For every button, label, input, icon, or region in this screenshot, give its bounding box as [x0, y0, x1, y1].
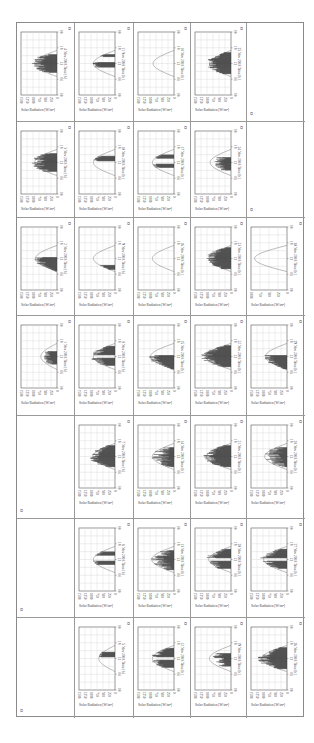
svg-text:12: 12 — [289, 455, 293, 459]
svg-text:21 Nov 2018 Time [h]: 21 Nov 2018 Time [h] — [237, 440, 241, 472]
svg-text:750: 750 — [258, 292, 262, 297]
chart-cell: ¤000612180015 Nov 2018 Time [h]150012501… — [134, 316, 191, 416]
svg-text:4 Nov 2018 Time [h]: 4 Nov 2018 Time [h] — [63, 48, 67, 78]
svg-text:1500: 1500 — [77, 593, 81, 600]
svg-text:1000: 1000 — [89, 390, 93, 397]
svg-text:0: 0 — [285, 593, 289, 595]
svg-text:0: 0 — [55, 97, 59, 99]
chart-cell: ¤000612180013 Nov 2018 Time [h]150012501… — [134, 519, 191, 618]
svg-text:1000: 1000 — [31, 390, 35, 397]
chart-cell: ¤000612180010 Nov 2018 Time [h]150012501… — [75, 122, 134, 218]
svg-text:1250: 1250 — [199, 593, 203, 600]
svg-text:Solar Radiation [W/m²]: Solar Radiation [W/m²] — [21, 207, 55, 211]
svg-text:1500: 1500 — [193, 490, 197, 497]
svg-text:250: 250 — [223, 692, 227, 697]
svg-text:1250: 1250 — [199, 692, 203, 699]
svg-text:0: 0 — [285, 692, 289, 694]
svg-text:18: 18 — [176, 339, 180, 343]
svg-text:500: 500 — [160, 593, 164, 598]
svg-text:500: 500 — [273, 390, 277, 395]
svg-text:1000: 1000 — [148, 593, 152, 600]
svg-text:00: 00 — [117, 323, 121, 327]
svg-text:06: 06 — [117, 673, 121, 677]
chart-cell: ¤000612180019 Nov 2018 Time [h]150012501… — [191, 618, 247, 718]
svg-text:500: 500 — [160, 292, 164, 297]
svg-text:1500: 1500 — [193, 97, 197, 104]
chart-cell: ¤00061218007 Nov 2018 Time [h]1500125010… — [75, 416, 134, 519]
svg-text:1250: 1250 — [25, 390, 29, 397]
svg-text:06: 06 — [117, 78, 121, 82]
svg-text:18: 18 — [176, 145, 180, 149]
svg-text:8 Nov 2018 Time [h]: 8 Nov 2018 Time [h] — [121, 341, 125, 371]
svg-text:12: 12 — [176, 455, 180, 459]
svg-text:1500: 1500 — [193, 593, 197, 600]
svg-text:Solar Radiation [W/m²]: Solar Radiation [W/m²] — [138, 703, 172, 707]
svg-text:500: 500 — [217, 292, 221, 297]
svg-text:1000: 1000 — [205, 196, 209, 203]
solar-radiation-chart: 000612180017 Nov 2018 Time [h]1500125010… — [134, 122, 191, 218]
svg-text:1000: 1000 — [205, 97, 209, 104]
svg-text:750: 750 — [267, 593, 271, 598]
svg-text:00: 00 — [233, 625, 237, 629]
cell-end-marker: ¤ — [20, 508, 23, 514]
svg-text:1500: 1500 — [249, 593, 253, 600]
svg-text:750: 750 — [95, 97, 99, 102]
svg-text:Solar Radiation [W/m²]: Solar Radiation [W/m²] — [195, 303, 229, 307]
svg-text:00: 00 — [176, 423, 180, 427]
svg-text:18: 18 — [233, 241, 237, 245]
svg-text:Solar Radiation [W/m²]: Solar Radiation [W/m²] — [195, 207, 229, 211]
svg-text:250: 250 — [223, 593, 227, 598]
svg-text:1000: 1000 — [261, 390, 265, 397]
svg-text:18: 18 — [176, 241, 180, 245]
svg-text:250: 250 — [279, 593, 283, 598]
svg-text:1500: 1500 — [136, 390, 140, 397]
svg-text:24 Nov 2018 Time [h]: 24 Nov 2018 Time [h] — [237, 146, 241, 178]
svg-text:1500: 1500 — [193, 692, 197, 699]
svg-text:Solar Radiation [W/m²]: Solar Radiation [W/m²] — [21, 303, 55, 307]
svg-text:500: 500 — [101, 292, 105, 297]
svg-text:00: 00 — [117, 225, 121, 229]
svg-text:1500: 1500 — [19, 97, 23, 104]
svg-text:18: 18 — [117, 241, 121, 245]
svg-text:1000: 1000 — [261, 490, 265, 497]
svg-text:Solar Radiation [W/m²]: Solar Radiation [W/m²] — [79, 604, 113, 608]
svg-text:500: 500 — [273, 593, 277, 598]
svg-text:1250: 1250 — [142, 593, 146, 600]
svg-text:00: 00 — [289, 625, 293, 629]
svg-text:1000: 1000 — [89, 593, 93, 600]
svg-text:1000: 1000 — [148, 196, 152, 203]
svg-text:2 Nov 2018 Time [h]: 2 Nov 2018 Time [h] — [63, 243, 67, 273]
svg-text:12: 12 — [117, 558, 121, 562]
svg-text:1000: 1000 — [31, 97, 35, 104]
svg-text:Solar Radiation [W/m²]: Solar Radiation [W/m²] — [138, 501, 172, 505]
svg-text:Solar Radiation [W/m²]: Solar Radiation [W/m²] — [195, 703, 229, 707]
solar-radiation-chart: 00061218001 Nov 2018 Time [h]15001250100… — [17, 316, 75, 416]
svg-text:750: 750 — [37, 97, 41, 102]
svg-text:750: 750 — [95, 196, 99, 201]
svg-text:1000: 1000 — [89, 490, 93, 497]
svg-text:250: 250 — [223, 490, 227, 495]
svg-text:0: 0 — [113, 292, 117, 294]
svg-text:1250: 1250 — [255, 390, 259, 397]
svg-text:12: 12 — [176, 558, 180, 562]
svg-text:Solar Radiation [W/m²]: Solar Radiation [W/m²] — [138, 207, 172, 211]
svg-text:12: 12 — [117, 657, 121, 661]
solar-radiation-chart: 000612180027 Nov 2018 Time [h]1500125010… — [247, 519, 305, 618]
svg-text:1500: 1500 — [136, 490, 140, 497]
svg-text:06: 06 — [233, 471, 237, 475]
svg-text:16 Nov 2018 Time [h]: 16 Nov 2018 Time [h] — [180, 242, 184, 274]
cell-end-marker: ¤ — [250, 207, 253, 213]
svg-text:1000: 1000 — [205, 390, 209, 397]
svg-text:1000: 1000 — [89, 292, 93, 299]
svg-text:1000: 1000 — [89, 196, 93, 203]
svg-text:1250: 1250 — [83, 196, 87, 203]
chart-cell: ¤00061218001 Nov 2018 Time [h]1500125010… — [17, 316, 75, 416]
svg-text:0: 0 — [55, 292, 59, 294]
svg-text:00: 00 — [176, 526, 180, 530]
solar-radiation-chart: 000612180013 Nov 2018 Time [h]1500125010… — [134, 519, 191, 618]
svg-text:06: 06 — [233, 371, 237, 375]
svg-text:Solar Radiation [W/m²]: Solar Radiation [W/m²] — [251, 303, 285, 307]
svg-text:500: 500 — [101, 196, 105, 201]
svg-text:18: 18 — [59, 46, 63, 50]
svg-text:1000: 1000 — [148, 292, 152, 299]
